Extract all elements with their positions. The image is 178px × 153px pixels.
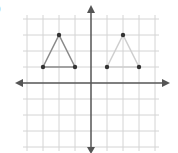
vertex-point bbox=[137, 65, 141, 69]
vertex-point bbox=[73, 65, 77, 69]
vertex-point bbox=[41, 65, 45, 69]
coordinate-plane bbox=[0, 0, 178, 153]
arrow-right-icon bbox=[162, 79, 170, 87]
vertex-point bbox=[121, 33, 125, 37]
vertex-point bbox=[57, 33, 61, 37]
vertex-point bbox=[105, 65, 109, 69]
arrow-down-icon bbox=[87, 147, 95, 153]
arrow-left-icon bbox=[15, 79, 23, 87]
arrow-up-icon bbox=[87, 5, 95, 13]
